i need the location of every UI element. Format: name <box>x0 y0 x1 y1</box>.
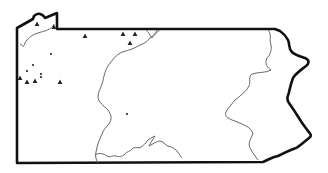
river-northeast <box>146 30 160 38</box>
site-markers <box>18 22 138 116</box>
dot-marker-icon <box>50 53 52 55</box>
triangle-marker-icon <box>33 79 38 83</box>
triangle-marker-icon <box>35 22 40 26</box>
river-east <box>225 30 271 160</box>
dot-marker-icon <box>126 113 128 115</box>
river-northwest <box>20 24 54 46</box>
pennsylvania-map <box>0 0 328 173</box>
state-border <box>17 13 311 163</box>
triangle-marker-icon <box>18 76 23 80</box>
triangle-marker-icon <box>83 34 88 38</box>
dot-marker-icon <box>40 73 42 75</box>
dot-marker-icon <box>26 70 28 72</box>
map-canvas <box>0 0 328 173</box>
triangle-marker-icon <box>58 80 63 84</box>
triangle-marker-icon <box>128 41 133 45</box>
triangle-marker-icon <box>133 32 138 36</box>
dot-marker-icon <box>40 76 42 78</box>
river-south <box>95 136 182 158</box>
dot-marker-icon <box>32 64 34 66</box>
triangle-marker-icon <box>121 32 126 36</box>
river-central <box>96 30 157 163</box>
triangle-marker-icon <box>25 80 30 84</box>
